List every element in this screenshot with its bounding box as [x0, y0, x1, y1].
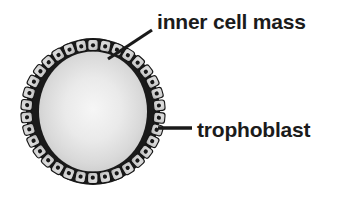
blastocoel-cavity [39, 52, 147, 172]
label-inner-cell-mass: inner cell mass [157, 11, 306, 32]
blastocyst-figure: inner cell mass trophoblast [0, 0, 340, 197]
label-trophoblast: trophoblast [197, 119, 310, 140]
